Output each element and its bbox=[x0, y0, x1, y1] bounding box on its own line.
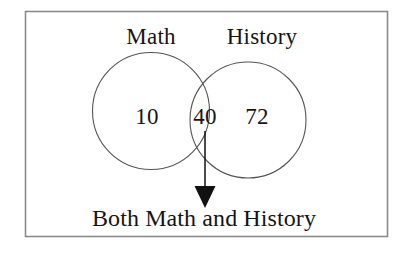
region-count-both: 40 bbox=[193, 105, 216, 128]
intersection-caption: Both Math and History bbox=[92, 206, 316, 230]
set-label-history: History bbox=[227, 25, 297, 48]
venn-diagram-figure: Math History 10 40 72 Both Math and Hist… bbox=[0, 0, 400, 257]
set-label-math: Math bbox=[126, 25, 175, 48]
region-count-history-only: 72 bbox=[245, 105, 268, 128]
region-count-math-only: 10 bbox=[135, 105, 158, 128]
